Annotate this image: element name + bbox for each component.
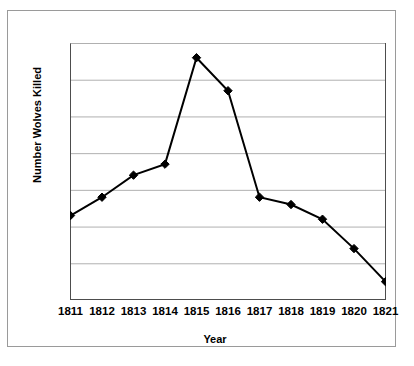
chart-canvas <box>70 43 386 300</box>
x-axis-title: Year <box>8 333 414 345</box>
data-point-marker <box>287 200 295 208</box>
y-axis-title: Number Wolves Killed <box>31 55 43 195</box>
data-point-marker <box>161 160 169 168</box>
chart-frame: Number Wolves Killed Year 01020304050607… <box>7 10 396 347</box>
data-point-marker <box>255 193 263 201</box>
plot-area: 010203040506070 181118121813181418151816… <box>70 43 386 300</box>
x-tick-label: 1821 <box>358 305 414 317</box>
